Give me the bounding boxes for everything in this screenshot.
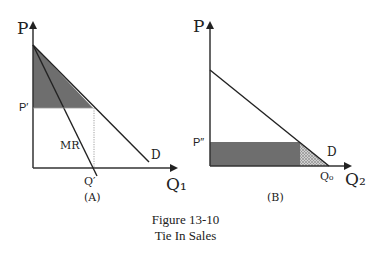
panel-b-quantity-label: Q₀: [320, 171, 333, 182]
panel-b-label: (B): [267, 192, 284, 203]
panel-b-price-label: P″: [193, 137, 204, 148]
y-axis-arrow: [206, 21, 214, 29]
panel-b-demand-label: D: [327, 146, 337, 158]
panel-a-mr-label: MR: [60, 140, 80, 151]
y-axis-arrow: [29, 21, 37, 29]
panel-a-quantity-label: Q′: [84, 176, 96, 187]
panel-b-y-axis-label: P: [193, 18, 204, 35]
panel-a-label: (A): [84, 192, 101, 203]
x-axis-arrow: [170, 164, 178, 172]
panel-b-x-axis-label: Q₂: [345, 171, 366, 188]
panel-a-demand-label: D: [151, 149, 161, 161]
panel-a-price-label: P′: [19, 102, 28, 113]
fee-area: [210, 142, 300, 166]
panel-a-y-axis-label: P: [17, 20, 28, 37]
figure-title: Tie In Sales: [0, 228, 377, 243]
mr-curve: [33, 45, 97, 176]
figure-number: Figure 13-10: [0, 212, 377, 227]
panel-a-x-axis-label: Q₁: [166, 176, 187, 193]
